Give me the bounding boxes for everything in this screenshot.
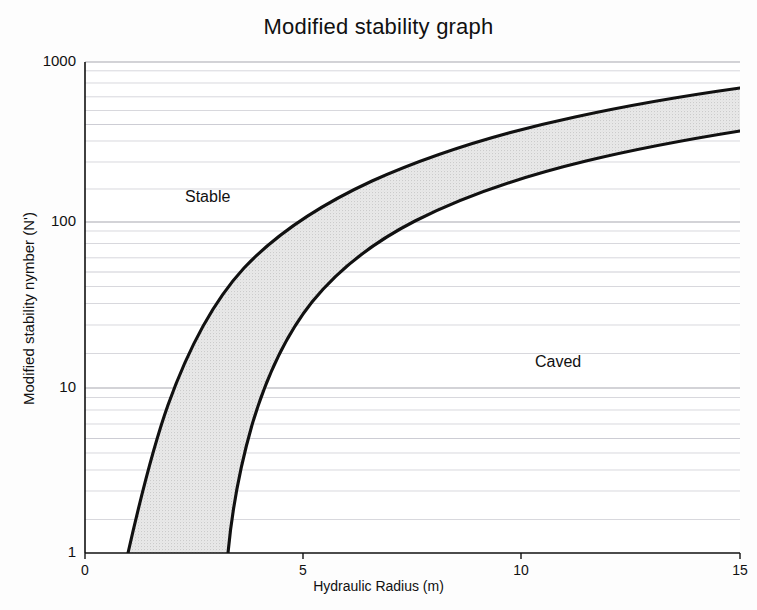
annotation-caved: Caved [535, 353, 581, 371]
chart-title: Modified stability graph [0, 14, 757, 40]
x-tick-5: 5 [293, 562, 313, 578]
x-tick-0: 0 [75, 562, 95, 578]
modified-stability-graph [0, 0, 757, 610]
y-tick-10: 10 [59, 378, 76, 395]
y-tick-1000: 1000 [43, 52, 76, 69]
x-tick-10: 10 [508, 562, 534, 578]
x-tick-15: 15 [727, 562, 753, 578]
y-tick-1: 1 [68, 543, 76, 560]
y-axis-label: Modified stability nymber (N') [20, 189, 37, 429]
y-tick-100: 100 [51, 212, 76, 229]
annotation-stable: Stable [185, 188, 230, 206]
x-axis-label: Hydraulic Radius (m) [0, 578, 757, 594]
